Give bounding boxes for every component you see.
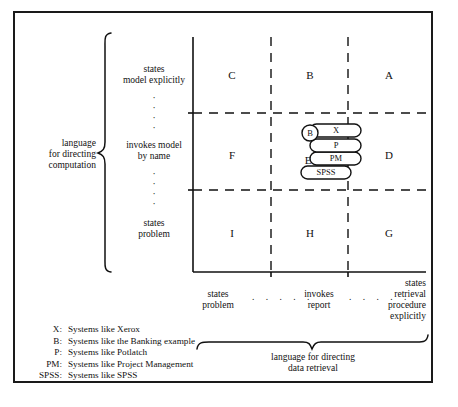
grid-cell-H: H — [302, 228, 318, 239]
y-axis-dots-upper: ···· — [140, 93, 168, 133]
grid-cell-C: C — [224, 70, 240, 81]
grid-cell-F: F — [224, 150, 240, 161]
marker-label-b: B — [303, 129, 317, 138]
marker-label-p: P — [328, 141, 344, 150]
legend-row-b: B: Systems like the Banking example — [22, 336, 237, 348]
legend-key-b: B: — [22, 336, 68, 348]
legend-row-pm: PM: Systems like Project Management — [22, 359, 237, 371]
legend-desc-p: Systems like Potlatch — [68, 347, 237, 359]
x-tick-label-invokes-report: invokesreport — [292, 289, 346, 311]
legend-desc-pm: Systems like Project Management — [68, 359, 237, 371]
legend-key-p: P: — [22, 347, 68, 359]
legend-desc-b: Systems like the Banking example — [68, 336, 237, 348]
grid-cell-E: E — [300, 155, 316, 166]
y-tick-label-invokes-model-by-name: invokes modelby name — [117, 140, 191, 162]
legend-key-spss: SPSS: — [22, 370, 68, 382]
y-axis-brace — [98, 33, 111, 272]
y-axis-dots-lower: ···· — [140, 169, 168, 209]
y-tick-label-states-problem: statesproblem — [117, 218, 191, 240]
x-tick-label-states-problem: statesproblem — [188, 289, 248, 311]
legend-key-pm: PM: — [22, 359, 68, 371]
legend-row-x: X: Systems like Xerox — [22, 324, 237, 336]
x-tick-label-states-retrieval-procedure-explicitly: statesretrievalprocedureexplicitly — [366, 278, 426, 322]
y-axis-brace-label: languagefor directingcomputation — [22, 138, 96, 171]
legend: X: Systems like Xerox B: Systems like th… — [22, 324, 237, 382]
marker-label-pm: PM — [326, 154, 346, 163]
marker-label-spss: SPSS — [310, 168, 342, 177]
grid-cell-I: I — [224, 228, 240, 239]
grid-cell-A: A — [381, 70, 397, 81]
figure-root: languagefor directingcomputation statesm… — [0, 0, 458, 407]
legend-row-spss: SPSS: Systems like SPSS — [22, 370, 237, 382]
grid-cell-G: G — [381, 228, 397, 239]
x-axis-brace-label: language for directingdata retrieval — [245, 352, 381, 374]
legend-row-p: P: Systems like Potlatch — [22, 347, 237, 359]
legend-desc-spss: Systems like SPSS — [68, 370, 237, 382]
legend-desc-x: Systems like Xerox — [68, 324, 237, 336]
y-tick-label-states-model-explicitly: statesmodel explicitly — [117, 64, 191, 86]
marker-label-x: X — [328, 126, 344, 135]
legend-key-x: X: — [22, 324, 68, 336]
grid-cell-D: D — [381, 150, 397, 161]
grid-cell-B: B — [302, 70, 318, 81]
